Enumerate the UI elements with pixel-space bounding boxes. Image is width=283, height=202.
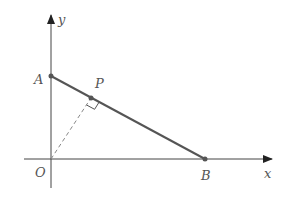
label-p: P [94,76,104,91]
point-b [203,157,208,162]
coordinate-diagram: y x A P O B [0,0,283,202]
label-b: B [200,168,211,183]
point-p [89,96,94,101]
point-a [49,74,54,79]
right-angle-marker [87,102,99,109]
label-origin: O [35,165,46,180]
segment-ab [51,76,205,159]
segment-op-dashed [51,98,91,159]
x-axis-label: x [264,166,272,181]
label-a: A [33,72,43,87]
y-axis-label: y [57,12,66,27]
